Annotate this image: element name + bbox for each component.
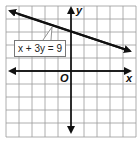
- equation-label: x + 3y = 9: [14, 40, 66, 57]
- origin-label: O: [60, 73, 69, 84]
- callout-pointer: [43, 27, 52, 40]
- y-axis-label: y: [76, 5, 82, 16]
- axes: [10, 8, 130, 132]
- coordinate-graph: x + 3y = 9 y x O: [0, 0, 137, 143]
- x-axis-label: x: [126, 73, 132, 84]
